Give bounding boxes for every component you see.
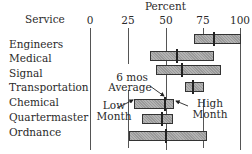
arrow-low-icon bbox=[117, 100, 133, 108]
arrow-avg-icon bbox=[150, 86, 164, 96]
arrow-high-icon bbox=[176, 101, 188, 106]
annotation-arrows bbox=[0, 0, 252, 154]
